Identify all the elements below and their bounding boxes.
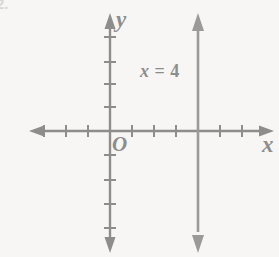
origin-label: O [112, 134, 127, 155]
x-axis [29, 125, 274, 137]
equation-value: 4 [170, 61, 180, 81]
equation-operator: = [155, 61, 166, 81]
graph-canvas [0, 0, 279, 257]
x-axis-arrow-left-icon [29, 126, 44, 137]
x-axis-label: x [262, 133, 274, 156]
line-arrow-up-icon [192, 13, 204, 31]
equation-annotation: x = 4 [140, 62, 180, 80]
coordinate-plane-figure: 2. [0, 0, 279, 257]
line-x-equals-4 [192, 13, 204, 253]
line-arrow-down-icon [192, 235, 204, 253]
equation-variable: x [140, 61, 150, 81]
y-axis-label: y [116, 8, 126, 31]
y-axis-arrow-down-icon [105, 237, 116, 253]
y-axis-arrow-up-icon [105, 13, 116, 29]
